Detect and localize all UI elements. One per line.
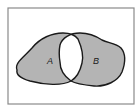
set-a-label: A — [46, 56, 53, 66]
set-b-label: B — [93, 56, 99, 66]
venn-diagram: A B — [0, 0, 140, 111]
